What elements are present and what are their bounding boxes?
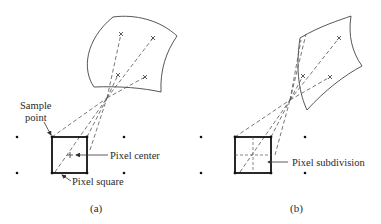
pixel-subdivision-label: Pixel subdivision xyxy=(292,157,365,168)
surface-patch xyxy=(87,16,177,92)
panel-b-caption: (b) xyxy=(290,202,303,215)
surface-sample-marks xyxy=(116,32,155,79)
sample-rays xyxy=(235,34,339,172)
panel-b: Pixel subdivision (b) xyxy=(200,16,366,215)
pixel-square-label: Pixel square xyxy=(72,176,124,187)
pixel-center-mark xyxy=(67,152,73,158)
sample-point-label-line2: point xyxy=(25,112,47,123)
surface-patch xyxy=(298,16,362,110)
pixel-center-label: Pixel center xyxy=(110,150,160,161)
panel-a: Sample point Pixel center Pixel square (… xyxy=(16,16,177,215)
figure-canvas: Sample point Pixel center Pixel square (… xyxy=(0,0,381,224)
panel-a-caption: (a) xyxy=(90,202,103,215)
sample-point-label-line1: Sample xyxy=(20,100,52,111)
